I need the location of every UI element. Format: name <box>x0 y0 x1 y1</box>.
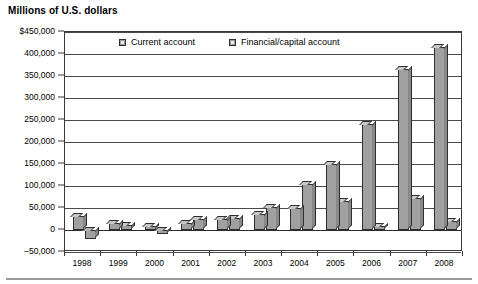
y-axis-tick-label: 100,000 <box>24 180 55 190</box>
x-axis-tick-label: 2003 <box>254 258 273 268</box>
bar <box>374 226 385 230</box>
x-axis-tick-mark <box>173 251 174 256</box>
y-axis-tick-label: 250,000 <box>24 114 55 124</box>
y-axis-tick-label: $450,000 <box>20 26 55 36</box>
x-axis-tick-label: 2004 <box>290 258 309 268</box>
x-axis-tick-label: 2007 <box>398 258 417 268</box>
bar <box>326 164 337 230</box>
x-axis-tick-mark <box>209 251 210 256</box>
bar <box>254 214 265 230</box>
plot-area <box>64 31 462 251</box>
bottom-divider <box>6 278 472 280</box>
bar <box>290 208 301 230</box>
x-axis-tick-label: 1999 <box>109 258 128 268</box>
y-axis-tick-label: 200,000 <box>24 136 55 146</box>
x-axis-tick-label: 2005 <box>326 258 345 268</box>
y-axis-tick-label: 300,000 <box>24 92 55 102</box>
bar <box>398 69 409 230</box>
bar-side-face <box>336 161 340 229</box>
x-axis-tick-mark <box>281 251 282 256</box>
bar-side-face <box>312 181 316 229</box>
bar-side-face <box>444 44 448 229</box>
bar-side-face <box>203 216 207 229</box>
bar-side-face <box>384 223 388 229</box>
bar-top-face <box>359 121 372 125</box>
x-axis-tick-label: 2000 <box>145 258 164 268</box>
bar-side-face <box>167 227 171 233</box>
bar <box>121 225 132 230</box>
bar <box>217 219 228 230</box>
bar <box>109 223 120 230</box>
bar-top-face <box>299 181 312 185</box>
bar-side-face <box>456 218 460 229</box>
x-axis-tick-mark <box>136 251 137 256</box>
y-axis-tick-label: 0 <box>50 224 55 234</box>
x-axis-tick-mark <box>390 251 391 256</box>
bar-side-face <box>420 195 424 229</box>
bar-top-face <box>178 220 191 224</box>
x-axis-tick-mark <box>426 251 427 256</box>
bar-top-face <box>142 223 155 227</box>
bar-top-face <box>323 161 336 165</box>
bar-top-face <box>263 204 276 208</box>
x-axis-tick-mark <box>462 251 463 256</box>
bar <box>157 230 168 234</box>
bar <box>181 223 192 230</box>
bar-side-face <box>372 121 376 229</box>
x-axis-tick-mark <box>100 251 101 256</box>
bar-side-face <box>276 204 280 229</box>
bar <box>446 221 457 230</box>
bar-side-face <box>239 215 243 229</box>
bar <box>145 226 156 230</box>
x-axis-tick-mark <box>245 251 246 256</box>
x-axis-tick-label: 2006 <box>362 258 381 268</box>
bar <box>73 216 84 230</box>
x-axis-tick-label: 1998 <box>73 258 92 268</box>
y-axis-tick-label: –50,000 <box>24 246 55 256</box>
bar-side-face <box>408 66 412 229</box>
y-axis-tick-label: 50,000 <box>29 202 55 212</box>
x-axis-tick-label: 2008 <box>434 258 453 268</box>
legend-label: Current account <box>131 37 195 47</box>
bar-top-face <box>251 211 264 215</box>
bar-top-face <box>214 216 227 220</box>
x-axis-tick-mark <box>64 251 65 256</box>
bar <box>362 124 373 230</box>
bar <box>85 230 96 239</box>
y-axis: $450,000400,000350,000300,000250,000200,… <box>0 31 64 251</box>
y-axis-tick-label: 150,000 <box>24 158 55 168</box>
chart-legend: Current accountFinancial/capital account <box>64 33 462 51</box>
x-axis-tick-mark <box>353 251 354 256</box>
bar-top-face <box>70 213 83 217</box>
bar-top-face <box>190 216 203 220</box>
x-axis-tick-label: 2002 <box>217 258 236 268</box>
x-axis-tick-mark <box>317 251 318 256</box>
bar-side-face <box>131 222 135 229</box>
bar-top-face <box>395 66 408 70</box>
bar-side-face <box>300 205 304 229</box>
x-axis: 1998199920002001200220032004200520062007… <box>64 251 462 277</box>
legend-swatch-icon <box>119 39 126 46</box>
bar-side-face <box>95 227 99 238</box>
chart-title: Millions of U.S. dollars <box>8 5 118 16</box>
y-axis-tick-label: 400,000 <box>24 48 55 58</box>
bar-top-face <box>106 220 119 224</box>
legend-entry: Financial/capital account <box>229 37 340 47</box>
bar-side-face <box>348 198 352 229</box>
bars-layer <box>65 32 461 250</box>
bar <box>434 47 445 230</box>
x-axis-tick-label: 2001 <box>181 258 200 268</box>
bar-top-face <box>287 205 300 209</box>
legend-entry: Current account <box>119 37 195 47</box>
y-axis-tick-label: 350,000 <box>24 70 55 80</box>
legend-swatch-icon <box>229 39 236 46</box>
legend-label: Financial/capital account <box>241 37 340 47</box>
